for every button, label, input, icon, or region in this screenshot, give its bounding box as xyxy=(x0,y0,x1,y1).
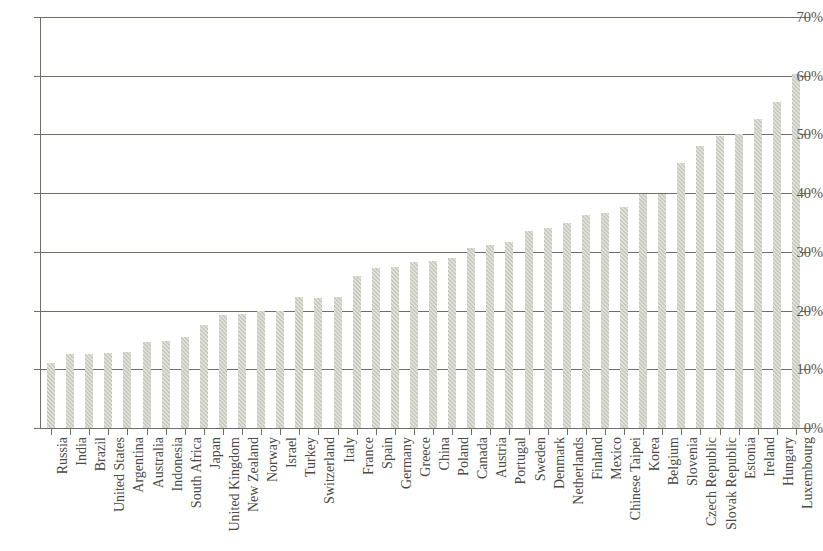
bar[interactable] xyxy=(123,352,131,428)
bar[interactable] xyxy=(162,341,170,428)
bar[interactable] xyxy=(410,262,418,428)
x-axis-tick-mark xyxy=(89,428,90,435)
x-axis-tick-mark xyxy=(376,428,377,435)
x-axis-tick-mark xyxy=(70,428,71,435)
x-axis-category-label: Ireland xyxy=(763,437,777,551)
bar[interactable] xyxy=(334,297,342,428)
bar[interactable] xyxy=(429,261,437,428)
x-axis-category-label: Estonia xyxy=(744,437,758,551)
bar[interactable] xyxy=(47,363,55,428)
x-axis-category-label: Poland xyxy=(457,437,471,551)
x-axis-tick-mark xyxy=(127,428,128,435)
x-axis-category-label: Canada xyxy=(476,437,490,551)
x-axis-tick-mark xyxy=(567,428,568,435)
x-axis-category-label: Korea xyxy=(648,437,662,551)
x-axis-tick-mark xyxy=(433,428,434,435)
x-axis-tick-mark xyxy=(452,428,453,435)
x-axis-tick-mark xyxy=(51,428,52,435)
x-axis-category-label: Greece xyxy=(419,437,433,551)
bar[interactable] xyxy=(295,297,303,428)
bar[interactable] xyxy=(773,102,781,428)
bar[interactable] xyxy=(658,194,666,428)
x-axis-category-label: Austria xyxy=(495,437,509,551)
x-axis-category-label: Luxembourg xyxy=(801,437,815,551)
x-axis-category-label: Israel xyxy=(285,437,299,551)
bar[interactable] xyxy=(219,315,227,428)
bar[interactable] xyxy=(353,276,361,428)
bar[interactable] xyxy=(372,268,380,428)
y-axis-tick-mark xyxy=(34,193,40,194)
x-axis-category-label: Slovak Republic xyxy=(725,437,739,551)
bar[interactable] xyxy=(486,245,494,428)
bar[interactable] xyxy=(181,337,189,428)
x-axis-tick-mark xyxy=(338,428,339,435)
bar[interactable] xyxy=(716,136,724,428)
bar[interactable] xyxy=(257,311,265,428)
x-axis-tick-mark xyxy=(357,428,358,435)
bar[interactable] xyxy=(754,119,762,428)
x-axis-tick-mark xyxy=(471,428,472,435)
bar[interactable] xyxy=(677,163,685,428)
x-axis-tick-mark xyxy=(720,428,721,435)
y-axis-tick-label: 60% xyxy=(787,69,823,84)
bar[interactable] xyxy=(639,194,647,428)
y-axis-tick-mark xyxy=(34,311,40,312)
gridline xyxy=(40,17,810,18)
x-axis-tick-mark xyxy=(395,428,396,435)
x-axis-category-label: France xyxy=(362,437,376,551)
x-axis-category-label: Argentina xyxy=(132,437,146,551)
bar[interactable] xyxy=(601,213,609,428)
gridline xyxy=(40,369,810,370)
bar[interactable] xyxy=(467,248,475,428)
x-axis-tick-mark xyxy=(681,428,682,435)
x-axis-tick-mark xyxy=(147,428,148,435)
bar[interactable] xyxy=(66,354,74,428)
bar-chart: 0%10%20%30%40%50%60%70%RussiaIndiaBrazil… xyxy=(0,0,823,551)
x-axis-category-label: Turkey xyxy=(304,437,318,551)
y-axis-tick-label: 40% xyxy=(787,186,823,201)
x-axis-category-label: India xyxy=(75,437,89,551)
bar[interactable] xyxy=(143,342,151,428)
x-axis-tick-mark xyxy=(242,428,243,435)
x-axis-tick-mark xyxy=(586,428,587,435)
bar[interactable] xyxy=(238,314,246,428)
x-axis-tick-mark xyxy=(548,428,549,435)
gridline xyxy=(40,76,810,77)
bar[interactable] xyxy=(391,267,399,428)
bar[interactable] xyxy=(735,134,743,428)
bar[interactable] xyxy=(276,311,284,428)
bar[interactable] xyxy=(314,298,322,428)
x-axis-line xyxy=(40,428,812,429)
x-axis-tick-mark xyxy=(643,428,644,435)
bar[interactable] xyxy=(544,228,552,428)
bar[interactable] xyxy=(620,207,628,428)
bar[interactable] xyxy=(85,354,93,428)
gridline xyxy=(40,311,810,312)
bar[interactable] xyxy=(582,215,590,428)
x-axis-tick-mark xyxy=(777,428,778,435)
bar[interactable] xyxy=(563,223,571,429)
bar[interactable] xyxy=(696,146,704,428)
y-axis-tick-label: 0% xyxy=(787,421,823,436)
x-axis-tick-mark xyxy=(662,428,663,435)
x-axis-tick-mark xyxy=(204,428,205,435)
x-axis-tick-mark xyxy=(166,428,167,435)
bar[interactable] xyxy=(505,242,513,428)
x-axis-tick-mark xyxy=(280,428,281,435)
x-axis-category-label: Netherlands xyxy=(572,437,586,551)
bar[interactable] xyxy=(525,231,533,428)
x-axis-category-label: Brazil xyxy=(94,437,108,551)
x-axis-category-label: Russia xyxy=(56,437,70,551)
y-axis-line xyxy=(40,17,41,428)
x-axis-tick-mark xyxy=(299,428,300,435)
bar[interactable] xyxy=(200,325,208,428)
bar[interactable] xyxy=(448,258,456,428)
x-axis-tick-mark xyxy=(758,428,759,435)
bar[interactable] xyxy=(104,353,112,428)
y-axis-tick-mark xyxy=(34,369,40,370)
y-axis-tick-mark xyxy=(34,428,40,429)
x-axis-category-label: Italy xyxy=(343,437,357,551)
x-axis-category-label: Norway xyxy=(266,437,280,551)
x-axis-category-label: China xyxy=(438,437,452,551)
x-axis-category-label: Sweden xyxy=(534,437,548,551)
